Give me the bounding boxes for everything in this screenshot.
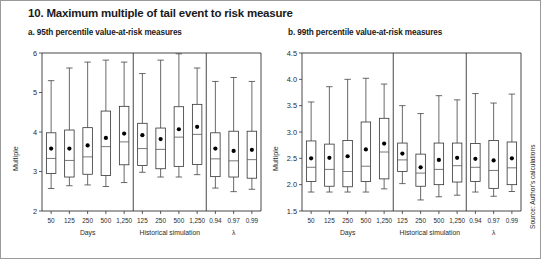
figure-container: 10. Maximum multiple of tail event to ri… (0, 0, 541, 259)
mean-marker (104, 136, 108, 140)
box-rect (138, 123, 147, 165)
x-tick-label: 250 (82, 217, 93, 224)
y-tick-label: 3.0 (287, 128, 297, 137)
mean-marker (250, 148, 254, 152)
mean-marker (437, 158, 441, 162)
x-tick-label: 0.99 (506, 217, 519, 224)
source-note: Source: Author's calculations (529, 145, 536, 229)
mean-marker (346, 154, 350, 158)
x-tick-label: 125 (64, 217, 75, 224)
x-tick-label: 0.97 (487, 217, 500, 224)
box-rect (398, 143, 407, 171)
mean-marker (419, 165, 423, 169)
box-rect (343, 140, 352, 186)
mean-marker (67, 146, 71, 150)
box-rect (325, 144, 334, 186)
panel-b-title: b. 99th percentile value-at-risk measure… (288, 28, 442, 37)
mean-marker (177, 127, 181, 131)
mean-marker (213, 146, 217, 150)
box-rect (507, 142, 516, 185)
box-rect (306, 141, 315, 182)
x-tick-label: 500 (101, 217, 112, 224)
box-rect (174, 107, 183, 167)
x-tick-label: 1,250 (116, 217, 132, 224)
group-label: Days (80, 229, 96, 237)
y-tick-label: 3.5 (287, 101, 297, 110)
mean-marker (400, 151, 404, 155)
y-tick-label: 5 (33, 88, 37, 97)
x-tick-label: 50 (308, 217, 316, 224)
group-label: Historical simulation (140, 229, 201, 236)
box-rect (434, 143, 443, 185)
y-tick-label: 3 (33, 167, 37, 176)
box-rect (65, 130, 74, 177)
mean-marker (140, 133, 144, 137)
box-rect (361, 122, 370, 182)
x-tick-label: 250 (155, 217, 166, 224)
mean-marker (510, 156, 514, 160)
panel-a-svg: 23456501252505001,250Days1252505001,250H… (17, 43, 265, 253)
mean-marker (364, 147, 368, 151)
x-tick-label: 50 (48, 217, 56, 224)
panel-a-title: a. 95th percentile value-at-risk measure… (28, 28, 182, 37)
box-rect (379, 118, 388, 179)
group-label: Days (340, 229, 356, 237)
x-tick-label: 125 (397, 217, 408, 224)
y-tick-label: 6 (33, 49, 37, 58)
x-tick-label: 1,250 (189, 217, 205, 224)
box-rect (452, 143, 461, 182)
y-tick-label: 2.5 (287, 154, 297, 163)
x-tick-label: 0.94 (209, 217, 222, 224)
box-rect (247, 131, 256, 178)
box-rect (83, 128, 92, 175)
y-tick-label: 2.0 (287, 180, 297, 189)
mean-marker (195, 125, 199, 129)
mean-marker (327, 156, 331, 160)
mean-marker (455, 156, 459, 160)
x-tick-label: 1,250 (376, 217, 392, 224)
mean-marker (492, 158, 496, 162)
x-tick-label: 0.94 (469, 217, 482, 224)
x-tick-label: 500 (174, 217, 185, 224)
y-tick-label: 4.5 (287, 49, 297, 58)
x-tick-label: 1,250 (449, 217, 465, 224)
y-tick-label: 1.5 (287, 207, 297, 216)
box-rect (229, 131, 238, 177)
box-rect (416, 154, 425, 186)
panel-a-plot: 23456501252505001,250Days1252505001,250H… (17, 43, 265, 253)
y-tick-label: 2 (33, 207, 37, 216)
x-tick-label: 250 (342, 217, 353, 224)
mean-marker (309, 156, 313, 160)
group-label: λ (492, 229, 496, 236)
box-rect (489, 140, 498, 188)
box-rect (156, 128, 165, 169)
figure-title: 10. Maximum multiple of tail event to ri… (28, 7, 293, 19)
box-rect (211, 133, 220, 177)
mean-marker (159, 137, 163, 141)
mean-marker (122, 131, 126, 135)
group-label: Historical simulation (400, 229, 461, 236)
y-tick-label: 4.0 (287, 75, 297, 84)
y-tick-label: 4 (33, 128, 37, 137)
mean-marker (382, 141, 386, 145)
x-tick-label: 0.99 (246, 217, 259, 224)
x-tick-label: 250 (415, 217, 426, 224)
x-tick-label: 0.97 (227, 217, 240, 224)
box-rect (46, 133, 55, 174)
x-tick-label: 125 (324, 217, 335, 224)
mean-marker (86, 143, 90, 147)
x-tick-label: 500 (434, 217, 445, 224)
panel-b-svg: 1.52.02.53.03.54.04.5501252505001,250Day… (277, 43, 525, 253)
box-rect (471, 144, 480, 182)
box-rect (101, 111, 110, 175)
group-label: λ (232, 229, 236, 236)
mean-marker (232, 149, 236, 153)
x-tick-label: 500 (361, 217, 372, 224)
mean-marker (473, 157, 477, 161)
panel-b-plot: 1.52.02.53.03.54.04.5501252505001,250Day… (277, 43, 525, 253)
x-tick-label: 125 (137, 217, 148, 224)
mean-marker (49, 146, 53, 150)
